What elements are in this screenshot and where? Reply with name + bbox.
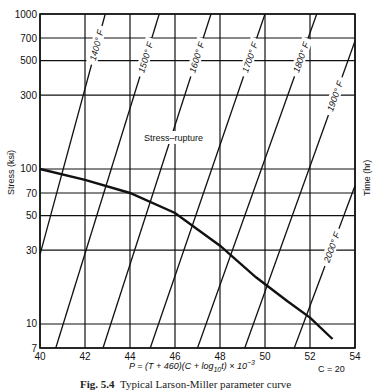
constant-label: C = 20 bbox=[318, 364, 345, 374]
x-axis-formula: P = (T + 460)(C + log10t) × 10−3 bbox=[129, 359, 255, 373]
stress-rupture-path bbox=[40, 169, 333, 339]
x-tick-label: 40 bbox=[34, 351, 46, 362]
figure-caption: Fig. 5.4 Typical Larson-Miller parameter… bbox=[80, 378, 291, 390]
x-tick-label: 50 bbox=[259, 351, 271, 362]
caption-fig-number: Fig. 5.4 bbox=[80, 378, 115, 390]
caption-text: Typical Larson-Miller parameter curve bbox=[120, 378, 291, 390]
y-axis-ticks: 7103050701003005007001000 bbox=[15, 9, 38, 354]
y-tick-label: 500 bbox=[20, 55, 37, 66]
y-tick-label: 50 bbox=[26, 210, 38, 221]
stress-rupture-curve bbox=[40, 169, 333, 339]
x-tick-label: 42 bbox=[79, 351, 91, 362]
y-tick-label: 1000 bbox=[15, 9, 38, 20]
y-tick-label: 700 bbox=[20, 33, 37, 44]
y2-axis-label: Time (hr) bbox=[362, 160, 372, 196]
x-tick-label: 54 bbox=[349, 351, 361, 362]
stress-rupture-label: Stress–rupture bbox=[144, 133, 203, 143]
y-axis-label: Stress (ksi) bbox=[6, 150, 16, 195]
y-tick-label: 10 bbox=[26, 318, 38, 329]
isotherm-label: 1400° F bbox=[88, 28, 106, 62]
y-tick-label: 30 bbox=[26, 245, 38, 256]
y-tick-label: 70 bbox=[26, 188, 38, 199]
x-tick-label: 52 bbox=[304, 351, 316, 362]
y-tick-label: 300 bbox=[20, 90, 37, 101]
y-tick-label: 100 bbox=[20, 163, 37, 174]
